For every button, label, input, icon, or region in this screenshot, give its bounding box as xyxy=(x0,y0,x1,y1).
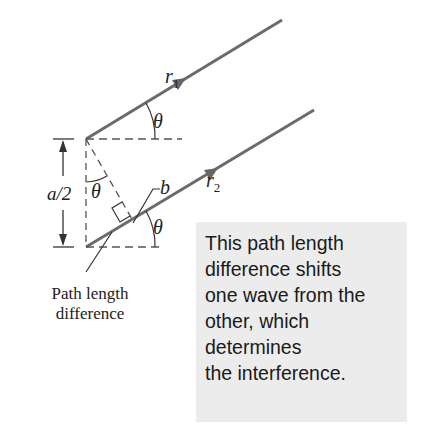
callout-line: the interference. xyxy=(205,360,407,386)
callout-line: This path length xyxy=(205,230,407,256)
dashed-perpendicular xyxy=(86,139,132,219)
label-b: b xyxy=(160,176,170,198)
label-r2: r2 xyxy=(206,169,220,195)
label-theta-middle: θ xyxy=(91,180,101,202)
explanation-callout: This path length difference shifts one w… xyxy=(196,222,407,422)
label-theta-bottom: θ xyxy=(153,216,163,238)
label-r1: r1 xyxy=(165,65,179,91)
right-angle-marker xyxy=(112,202,130,222)
callout-line: other, which xyxy=(205,308,407,334)
path-difference-line2: difference xyxy=(20,304,160,324)
callout-line: one wave from the xyxy=(205,282,407,308)
label-theta-top: θ xyxy=(153,110,163,132)
dimension-arrow-down xyxy=(59,234,67,246)
label-a-over-2: a/2 xyxy=(47,183,72,204)
path-difference-label: Path length difference xyxy=(20,284,160,324)
callout-line: difference shifts xyxy=(205,256,407,282)
path-difference-line1: Path length xyxy=(20,284,160,304)
dimension-arrow-up xyxy=(59,140,67,152)
callout-line: determines xyxy=(205,334,407,360)
